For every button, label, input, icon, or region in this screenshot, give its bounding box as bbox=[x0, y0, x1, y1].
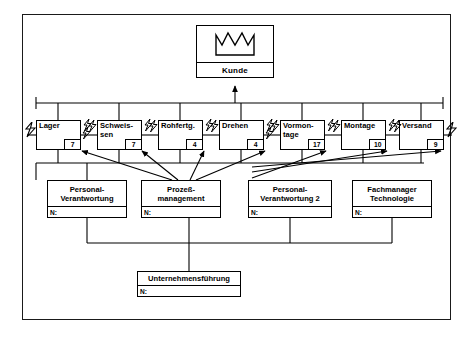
role-label-line1: Fachmanager bbox=[367, 185, 416, 194]
role-n-field[interactable]: N: bbox=[353, 207, 431, 217]
lightning-bolt-icon bbox=[25, 122, 36, 142]
role-label-line2: management bbox=[158, 194, 205, 203]
role-label: Personal- Verantwortung bbox=[48, 181, 126, 207]
process-count: 4 bbox=[186, 139, 203, 150]
process-label: Versand bbox=[402, 122, 441, 131]
process-count: 10 bbox=[369, 139, 386, 150]
process-count: 4 bbox=[247, 139, 264, 150]
double-lightning-bolt-icon bbox=[143, 119, 158, 143]
role-label-line2: Verantwortung 2 bbox=[260, 194, 320, 203]
double-lightning-bolt-icon bbox=[265, 119, 280, 143]
process-count: 9 bbox=[427, 139, 444, 150]
process-box-versand[interactable]: Versand 9 bbox=[399, 120, 444, 150]
process-label-line2: sen bbox=[100, 130, 113, 139]
role-box-prozessmanagement[interactable]: Prozeß- management N: bbox=[141, 180, 221, 218]
role-label-line2: Technologie bbox=[370, 194, 414, 203]
double-lightning-bolt-icon bbox=[204, 119, 219, 143]
kunde-box[interactable]: Kunde bbox=[196, 25, 274, 78]
role-label: Prozeß- management bbox=[142, 181, 220, 207]
role-box-fachmanager-technologie[interactable]: Fachmanager Technologie N: bbox=[352, 180, 432, 218]
double-lightning-bolt-icon bbox=[387, 119, 402, 143]
diagram-canvas: Kunde Lager 7 Schweis- sen 7 Rohfertg. 4… bbox=[0, 0, 473, 337]
role-n-field[interactable]: N: bbox=[48, 207, 126, 217]
process-label: Lager bbox=[39, 122, 78, 131]
process-box-schweissen[interactable]: Schweis- sen 7 bbox=[97, 120, 142, 150]
crown-icon bbox=[197, 26, 273, 63]
process-box-montage[interactable]: Montage 10 bbox=[341, 120, 386, 150]
role-label-line1: Prozeß- bbox=[167, 185, 195, 194]
process-label: Drehen bbox=[222, 122, 261, 131]
management-box-unternehmensfuehrung[interactable]: Unternehmensführung N: bbox=[137, 271, 241, 297]
process-label-line2: tage bbox=[283, 130, 299, 139]
process-label: Rohfertg. bbox=[161, 122, 200, 131]
process-count: 7 bbox=[125, 139, 142, 150]
role-n-field[interactable]: N: bbox=[142, 207, 220, 217]
role-n-field[interactable]: N: bbox=[249, 207, 331, 217]
role-box-personal-verantwortung-2[interactable]: Personal- Verantwortung 2 N: bbox=[248, 180, 332, 218]
process-count: 17 bbox=[308, 139, 325, 150]
role-label-line1: Personal- bbox=[273, 185, 308, 194]
kunde-label: Kunde bbox=[197, 63, 273, 77]
role-label-line2: Verantwortung bbox=[60, 194, 113, 203]
role-label-line1: Personal- bbox=[70, 185, 105, 194]
process-box-lager[interactable]: Lager 7 bbox=[36, 120, 81, 150]
lightning-bolt-icon bbox=[446, 122, 457, 142]
double-lightning-bolt-icon bbox=[82, 119, 97, 143]
role-label: Fachmanager Technologie bbox=[353, 181, 431, 207]
process-count: 7 bbox=[64, 139, 81, 150]
process-box-drehen[interactable]: Drehen 4 bbox=[219, 120, 264, 150]
role-box-personal-verantwortung[interactable]: Personal- Verantwortung N: bbox=[47, 180, 127, 218]
management-label: Unternehmensführung bbox=[138, 272, 240, 286]
double-lightning-bolt-icon bbox=[326, 119, 341, 143]
process-label: Schweis- sen bbox=[100, 122, 139, 139]
process-box-rohfertg[interactable]: Rohfertg. 4 bbox=[158, 120, 203, 150]
process-label: Vormon- tage bbox=[283, 122, 322, 139]
management-n-field[interactable]: N: bbox=[138, 286, 240, 296]
process-label: Montage bbox=[344, 122, 383, 131]
role-label: Personal- Verantwortung 2 bbox=[249, 181, 331, 207]
process-box-vormontage[interactable]: Vormon- tage 17 bbox=[280, 120, 325, 150]
